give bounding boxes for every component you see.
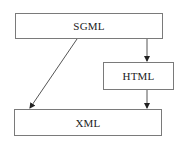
node-html: HTML xyxy=(103,62,174,90)
node-xml-label: XML xyxy=(75,117,100,129)
node-sgml-label: SGML xyxy=(73,20,104,32)
node-sgml: SGML xyxy=(15,13,163,39)
edge-sgml-to-xml xyxy=(30,39,77,108)
node-html-label: HTML xyxy=(123,70,155,82)
node-xml: XML xyxy=(14,109,162,136)
